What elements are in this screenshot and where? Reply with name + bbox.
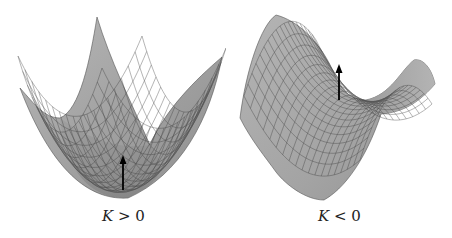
saddle-surface <box>226 0 452 238</box>
label-variable: K <box>102 207 113 225</box>
label-variable: K <box>318 207 329 225</box>
positive-curvature-label: K > 0 <box>102 207 145 225</box>
saddle-panel: K < 0 <box>226 0 452 238</box>
negative-curvature-label: K < 0 <box>318 207 361 225</box>
arrow-head-icon <box>336 64 343 73</box>
paraboloid-panel: K > 0 <box>0 0 226 238</box>
label-relation: < 0 <box>329 207 361 225</box>
paraboloid-surface <box>0 0 226 238</box>
label-relation: > 0 <box>113 207 145 225</box>
